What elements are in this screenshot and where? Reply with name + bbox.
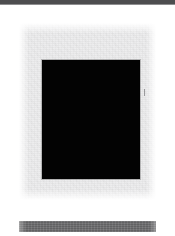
top-header-band <box>0 0 175 5</box>
scanned-page <box>0 0 175 236</box>
margin-tick-mark <box>144 89 145 96</box>
bottom-footer-bar <box>19 221 156 232</box>
black-image-plate <box>42 60 140 179</box>
